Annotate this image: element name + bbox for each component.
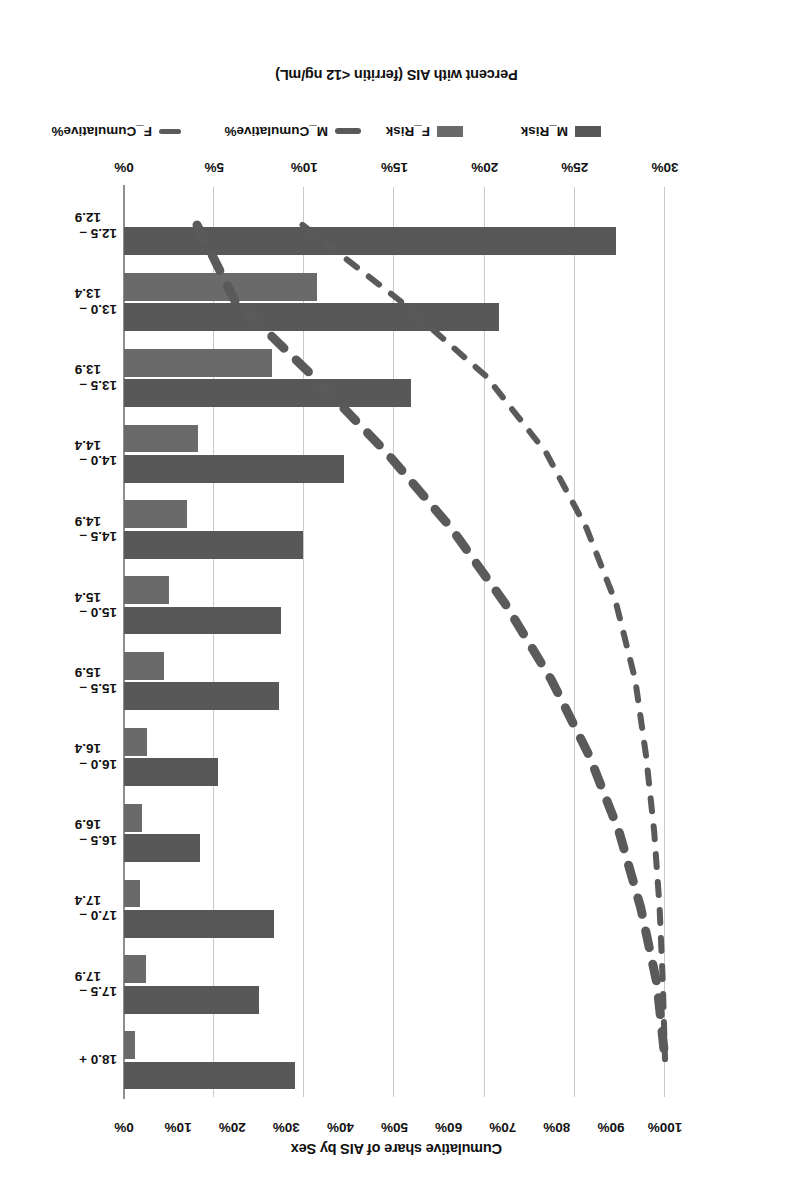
- category-label-line2: 16.9: [75, 816, 101, 832]
- bar-m_risk: [124, 758, 218, 786]
- category-label-line2: 13.4: [75, 285, 101, 301]
- bar-m_risk: [124, 455, 344, 483]
- bar-f_risk: [124, 652, 164, 680]
- bar-m_risk: [124, 227, 616, 255]
- primary-tick-label: 30%: [651, 160, 678, 175]
- legend-item-m-cumulative[interactable]: M_Cumulative%: [224, 124, 361, 139]
- primary-tick-label: 20%: [471, 160, 498, 175]
- secondary-axis-title: Cumulative share of AIS by Sex: [0, 1141, 793, 1157]
- bar-f_risk: [124, 349, 272, 377]
- category-label-line1: 13.0 –: [75, 301, 117, 317]
- gridline: [574, 187, 575, 1097]
- category-label: 14.0 –14.4: [75, 437, 117, 468]
- category-label: 12.5 –12.9: [75, 209, 117, 240]
- gridline: [664, 187, 665, 1097]
- category-label: 15.5 –15.9: [75, 664, 117, 695]
- bar-m_risk: [124, 607, 281, 635]
- category-label-line1: 16.0 –: [75, 756, 117, 772]
- primary-tick-label: 15%: [381, 160, 408, 175]
- category-label: 13.0 –13.4: [75, 285, 117, 316]
- category-label-line2: 17.9: [75, 968, 101, 984]
- bar-m_risk: [124, 303, 499, 331]
- secondary-tick-label: 10%: [165, 1120, 192, 1135]
- legend-label: M_Cumulative%: [224, 124, 328, 139]
- legend-label: F_Cumulative%: [51, 124, 152, 139]
- category-label-line2: 15.9: [75, 664, 101, 680]
- bar-m_risk: [124, 682, 279, 710]
- category-label: 15.0 –15.4: [75, 589, 117, 620]
- legend-line-swatch-icon: [335, 129, 361, 135]
- bar-m_risk: [124, 910, 274, 938]
- category-label-line1: 15.0 –: [75, 604, 117, 620]
- category-label-line1: 16.5 –: [75, 832, 117, 848]
- primary-axis-title: Percent with AIS (ferritin <12 ng/mL): [0, 67, 793, 83]
- category-label-line2: 15.4: [75, 589, 101, 605]
- secondary-tick-label: 20%: [219, 1120, 246, 1135]
- secondary-tick-label: 50%: [381, 1120, 408, 1135]
- legend-label: M_Risk: [521, 124, 568, 139]
- secondary-tick-label: 80%: [543, 1120, 570, 1135]
- category-label-line2: 13.9: [75, 361, 101, 377]
- secondary-tick-label: 70%: [489, 1120, 516, 1135]
- bar-f_risk: [124, 425, 198, 453]
- primary-tick-label: 5%: [204, 160, 224, 175]
- bar-m_risk: [124, 834, 200, 862]
- category-label-line1: 15.5 –: [75, 680, 117, 696]
- category-label-line2: 16.4: [75, 740, 101, 756]
- category-label-line1: 14.0 –: [75, 452, 117, 468]
- legend-label: F_Risk: [386, 124, 430, 139]
- legend-item-f-risk[interactable]: F_Risk: [386, 124, 463, 139]
- bar-f_risk: [124, 576, 169, 604]
- category-label-line1: 17.0 –: [75, 907, 117, 923]
- primary-tick-label: 0%: [114, 160, 134, 175]
- plot-area: [124, 187, 665, 1097]
- bar-f_risk: [124, 273, 317, 301]
- secondary-tick-label: 60%: [435, 1120, 462, 1135]
- secondary-tick-label: 100%: [648, 1120, 683, 1135]
- category-label-line2: 12.9: [75, 209, 101, 225]
- category-label: 16.0 –16.4: [75, 740, 117, 771]
- category-label-line1: 18.0 +: [79, 1051, 117, 1067]
- bar-f_risk: [124, 804, 142, 832]
- secondary-tick-label: 40%: [327, 1120, 354, 1135]
- category-label-line2: 14.4: [75, 437, 101, 453]
- category-label-line1: 12.5 –: [75, 225, 117, 241]
- chart-figure: Percent with AIS (ferritin <12 ng/mL) Cu…: [0, 0, 793, 1201]
- legend-bar-swatch-icon: [575, 126, 601, 137]
- secondary-tick-label: 30%: [273, 1120, 300, 1135]
- bar-m_risk: [124, 379, 411, 407]
- category-label-line1: 17.5 –: [75, 983, 117, 999]
- category-label: 17.0 –17.4: [75, 892, 117, 923]
- category-label-line1: 14.5 –: [75, 528, 117, 544]
- bar-m_risk: [124, 1062, 295, 1090]
- bar-f_risk: [124, 880, 140, 908]
- legend-item-f-cumulative[interactable]: F_Cumulative%: [51, 124, 181, 139]
- category-label-line1: 13.5 –: [75, 377, 117, 393]
- bar-f_risk: [124, 500, 187, 528]
- primary-tick-label: 25%: [561, 160, 588, 175]
- bar-f_risk: [124, 1031, 135, 1059]
- legend-item-m-risk[interactable]: M_Risk: [521, 124, 601, 139]
- secondary-tick-label: 0%: [114, 1120, 134, 1135]
- bar-m_risk: [124, 531, 303, 559]
- secondary-tick-label: 90%: [597, 1120, 624, 1135]
- category-label: 17.5 –17.9: [75, 968, 117, 999]
- chart-legend: M_RiskF_RiskM_Cumulative%F_Cumulative%: [0, 113, 793, 139]
- bar-f_risk: [124, 728, 147, 756]
- category-label: 13.5 –13.9: [75, 361, 117, 392]
- primary-tick-label: 10%: [291, 160, 318, 175]
- legend-line-swatch-icon: [159, 129, 181, 134]
- category-label-line2: 17.4: [75, 892, 101, 908]
- category-label: 16.5 –16.9: [75, 816, 117, 847]
- legend-bar-swatch-icon: [437, 126, 463, 137]
- bar-m_risk: [124, 986, 259, 1014]
- category-label-line2: 14.9: [75, 513, 101, 529]
- category-label: 14.5 –14.9: [75, 513, 117, 544]
- rotated-figure-container: Percent with AIS (ferritin <12 ng/mL) Cu…: [0, 0, 793, 1201]
- category-label: 18.0 +: [79, 1051, 117, 1067]
- bar-f_risk: [124, 955, 146, 983]
